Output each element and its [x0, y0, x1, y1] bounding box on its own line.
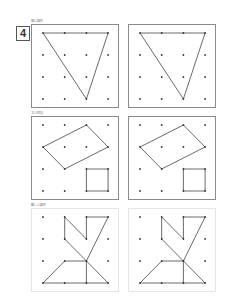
grid-dot	[64, 124, 66, 126]
grid-dot	[107, 260, 109, 262]
grid-dot	[183, 216, 185, 218]
grid-dot	[86, 32, 88, 34]
grid-dot	[139, 76, 141, 78]
shape-segment	[43, 261, 65, 283]
section-label-2: 太い四角	[31, 111, 43, 115]
dot-grid	[129, 117, 215, 199]
grid-dot	[86, 124, 88, 126]
grid-dot	[42, 282, 44, 284]
grid-dot	[42, 32, 44, 34]
grid-dot	[42, 124, 44, 126]
grid-dot	[139, 216, 141, 218]
dot-grid	[32, 117, 118, 199]
shape-segment	[43, 147, 65, 169]
grid-dot	[107, 54, 109, 56]
grid-dot	[64, 260, 66, 262]
grid-dot	[42, 190, 44, 192]
answer-panel-2[interactable]	[128, 116, 216, 200]
shape-segment	[183, 33, 205, 99]
shape-segment	[162, 239, 184, 261]
grid-dot	[64, 190, 66, 192]
dot-grid	[129, 209, 215, 291]
shape-segment	[183, 261, 205, 283]
grid-dot	[86, 216, 88, 218]
shape-segment	[86, 261, 108, 283]
grid-dot	[42, 216, 44, 218]
grid-dot	[139, 282, 141, 284]
grid-dot	[183, 32, 185, 34]
example-panel-2	[31, 116, 119, 200]
grid-dot	[64, 98, 66, 100]
grid-dot	[204, 168, 206, 170]
grid-dot	[183, 76, 185, 78]
grid-dot	[161, 260, 163, 262]
shape-segment	[140, 125, 183, 147]
grid-dot	[161, 54, 163, 56]
dot-grid	[129, 25, 215, 107]
grid-dot	[42, 98, 44, 100]
grid-dot	[139, 32, 141, 34]
grid-dot	[139, 190, 141, 192]
grid-dot	[204, 32, 206, 34]
shape-segment	[86, 125, 108, 147]
grid-dot	[86, 282, 88, 284]
dot-grid	[32, 209, 118, 291]
grid-dot	[161, 238, 163, 240]
grid-dot	[107, 238, 109, 240]
grid-dot	[139, 98, 141, 100]
shape-segment	[86, 217, 108, 261]
shape-segment	[65, 147, 108, 169]
grid-dot	[139, 124, 141, 126]
grid-dot	[64, 146, 66, 148]
grid-dot	[107, 146, 109, 148]
grid-dot	[139, 146, 141, 148]
grid-dot	[161, 216, 163, 218]
grid-dot	[183, 124, 185, 126]
grid-dot	[86, 260, 88, 262]
shape-segment	[183, 125, 205, 147]
grid-dot	[139, 238, 141, 240]
grid-dot	[161, 168, 163, 170]
grid-dot	[42, 76, 44, 78]
grid-dot	[64, 76, 66, 78]
grid-dot	[204, 282, 206, 284]
grid-dot	[161, 76, 163, 78]
shape-segment	[183, 217, 205, 261]
dot-grid	[32, 25, 118, 107]
shape-segment	[43, 33, 86, 99]
grid-dot	[86, 146, 88, 148]
grid-dot	[86, 190, 88, 192]
grid-dot	[204, 54, 206, 56]
grid-dot	[183, 168, 185, 170]
grid-dot	[161, 124, 163, 126]
shape-segment	[140, 147, 162, 169]
grid-dot	[42, 168, 44, 170]
grid-dot	[204, 260, 206, 262]
grid-dot	[107, 32, 109, 34]
shape-segment	[43, 125, 86, 147]
grid-dot	[107, 168, 109, 170]
grid-dot	[64, 282, 66, 284]
grid-dot	[64, 32, 66, 34]
grid-dot	[161, 98, 163, 100]
section-label-1: 細い図形	[31, 19, 43, 23]
grid-dot	[107, 216, 109, 218]
shape-segment	[162, 147, 205, 169]
answer-panel-1[interactable]	[128, 24, 216, 108]
answer-panel-3[interactable]	[128, 208, 216, 292]
grid-dot	[64, 168, 66, 170]
grid-dot	[183, 238, 185, 240]
grid-dot	[64, 238, 66, 240]
grid-dot	[204, 216, 206, 218]
grid-dot	[107, 76, 109, 78]
grid-dot	[161, 32, 163, 34]
grid-dot	[42, 260, 44, 262]
section-label-3: 難しい図形	[31, 203, 46, 207]
grid-dot	[107, 124, 109, 126]
example-panel-3	[31, 208, 119, 292]
grid-dot	[86, 76, 88, 78]
example-panel-1	[31, 24, 119, 108]
grid-dot	[86, 238, 88, 240]
shape-segment	[140, 33, 183, 99]
grid-dot	[42, 238, 44, 240]
